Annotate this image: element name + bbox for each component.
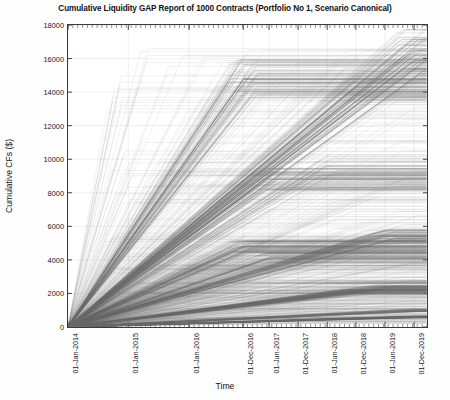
x-axis-tick-label: 01-Dec-2017: [301, 333, 310, 375]
y-axis-tick-labels: 0200040006000800010000120001400016000180…: [28, 24, 64, 328]
y-axis-tick-label: 2000: [48, 289, 64, 298]
plot-area: [67, 24, 428, 328]
x-axis-tick-label: 01-Dec-2016: [246, 333, 255, 375]
x-axis-tick-label: 01-Jan-2015: [131, 333, 140, 373]
chart-title: Cumulative Liquidity GAP Report of 1000 …: [0, 4, 450, 13]
y-axis-tick-label: 14000: [43, 88, 64, 97]
x-axis-tick-labels: 01-Jan-201401-Jan-201501-Jan-201601-Dec-…: [67, 333, 428, 385]
y-axis-tick-label: 16000: [43, 54, 64, 63]
x-axis-tick-label: 01-Jun-2017: [272, 333, 281, 373]
y-axis-tick-label: 8000: [48, 188, 64, 197]
x-axis-tick-label: 01-Jan-2016: [192, 333, 201, 373]
x-axis-label: Time: [0, 381, 450, 391]
y-axis-tick-label: 18000: [43, 21, 64, 30]
x-axis-tick-label: 01-Jun-2018: [330, 333, 339, 373]
y-axis-tick-label: 4000: [48, 255, 64, 264]
x-axis-tick-label: 01-Jan-2014: [71, 333, 80, 373]
y-axis-tick-label: 6000: [48, 222, 64, 231]
x-axis-tick-label: 01-Dec-2019: [417, 333, 426, 375]
line-series-canvas: [68, 25, 427, 327]
x-axis-tick-label: 01-Jun-2019: [388, 333, 397, 373]
y-axis-label: Cumulative CFs ($): [4, 139, 14, 213]
y-axis-tick-label: 10000: [43, 155, 64, 164]
y-axis-tick-label: 12000: [43, 121, 64, 130]
chart-figure: Cumulative Liquidity GAP Report of 1000 …: [0, 0, 450, 400]
x-axis-tick-label: 01-Dec-2018: [359, 333, 368, 375]
y-axis-tick-label: 0: [60, 323, 64, 332]
